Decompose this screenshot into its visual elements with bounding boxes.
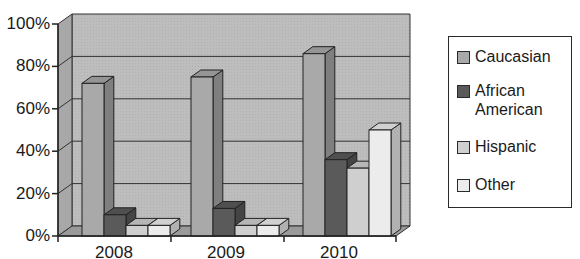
y-tick-label: 80%	[0, 56, 50, 76]
legend-label: Caucasian	[475, 47, 571, 66]
y-tick-label: 20%	[0, 184, 50, 204]
side-wall	[58, 14, 72, 236]
legend-label: African American	[475, 81, 571, 119]
y-tick-label: 40%	[0, 141, 50, 161]
legend-item-african-american: African American	[457, 81, 571, 119]
legend-swatch-african-american	[457, 85, 470, 98]
y-tick-label: 100%	[0, 14, 50, 34]
legend-item-hispanic: Hispanic	[457, 137, 571, 156]
y-tick-label: 0%	[0, 226, 50, 246]
legend: Caucasian African American Hispanic Othe…	[448, 36, 572, 208]
legend-swatch-other	[457, 179, 470, 192]
x-tick-label: 2008	[74, 243, 154, 259]
legend-item-other: Other	[457, 175, 571, 194]
legend-swatch-caucasian	[457, 51, 470, 64]
y-tick-label: 60%	[0, 99, 50, 119]
legend-item-caucasian: Caucasian	[457, 47, 571, 66]
legend-swatch-hispanic	[457, 141, 470, 154]
x-tick-label: 2009	[186, 243, 266, 259]
bar-2010-other	[369, 123, 401, 236]
chart-plot-area	[0, 0, 440, 259]
legend-label: Other	[475, 175, 571, 194]
legend-label: Hispanic	[475, 137, 571, 156]
x-tick-label: 2010	[299, 243, 379, 259]
